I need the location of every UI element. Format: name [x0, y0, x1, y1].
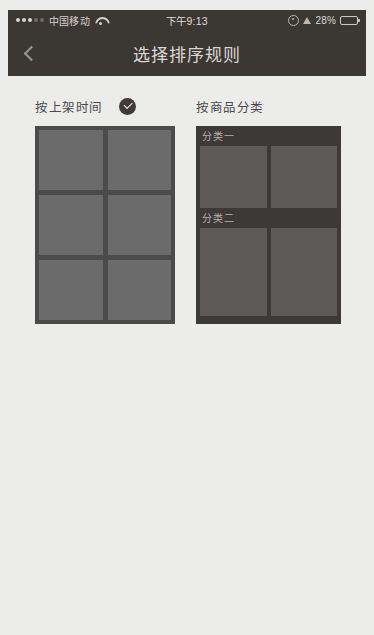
- grid-tile: [200, 290, 267, 316]
- option-label: 按上架时间: [35, 97, 103, 116]
- grid-tile: [200, 146, 267, 208]
- category-tile-grid: [200, 290, 337, 316]
- option-header: 按商品分类: [196, 94, 341, 118]
- sort-rule-options: 按上架时间 按商品分类: [35, 94, 341, 324]
- carrier-name: 中国移动: [49, 13, 90, 28]
- chevron-left-icon: [23, 45, 39, 61]
- wifi-icon: [95, 16, 106, 25]
- category-section: 分类二: [196, 208, 341, 290]
- location-arrow-icon: [303, 17, 311, 24]
- back-button[interactable]: [8, 30, 54, 76]
- content-area: 按上架时间 按商品分类: [0, 76, 374, 635]
- option-header: 按上架时间: [35, 94, 175, 118]
- status-bar: 中国移动 下午9:13 28%: [8, 10, 366, 30]
- sort-option-by-listing-time[interactable]: 按上架时间: [35, 94, 175, 324]
- preview-plain-grid[interactable]: [35, 126, 175, 324]
- preview-categorized-grid[interactable]: 分类一 分类二: [196, 126, 341, 324]
- grid-tile: [271, 146, 338, 208]
- rotation-lock-icon: [288, 15, 299, 26]
- page-title: 选择排序规则: [8, 41, 366, 66]
- phone-screen: 中国移动 下午9:13 28% 选择排序规则 按上架时间: [0, 0, 374, 635]
- category-section-clipped: [196, 290, 341, 316]
- option-label: 按商品分类: [196, 97, 264, 116]
- category-section: 分类一: [196, 126, 341, 208]
- sort-option-by-product-category[interactable]: 按商品分类 分类一 分类二: [196, 94, 341, 324]
- category-title: 分类二: [200, 208, 337, 228]
- category-title: 分类一: [200, 126, 337, 146]
- status-bar-right: 28%: [288, 15, 358, 26]
- grid-tile: [39, 195, 103, 255]
- status-bar-left: 中国移动: [16, 13, 106, 28]
- grid-tile: [39, 130, 103, 190]
- battery-icon: [340, 16, 358, 25]
- grid-tile: [108, 195, 172, 255]
- grid-tile: [108, 130, 172, 190]
- grid-tile: [108, 260, 172, 320]
- category-tile-grid: [200, 228, 337, 290]
- navigation-bar: 选择排序规则: [8, 30, 366, 76]
- grid-tile: [200, 228, 267, 290]
- category-tile-grid: [200, 146, 337, 208]
- battery-percent-label: 28%: [315, 15, 336, 26]
- check-circle-icon[interactable]: [119, 98, 136, 115]
- tile-grid: [39, 130, 171, 320]
- grid-tile: [271, 290, 338, 316]
- grid-tile: [39, 260, 103, 320]
- signal-strength-icon: [16, 18, 44, 22]
- grid-tile: [271, 228, 338, 290]
